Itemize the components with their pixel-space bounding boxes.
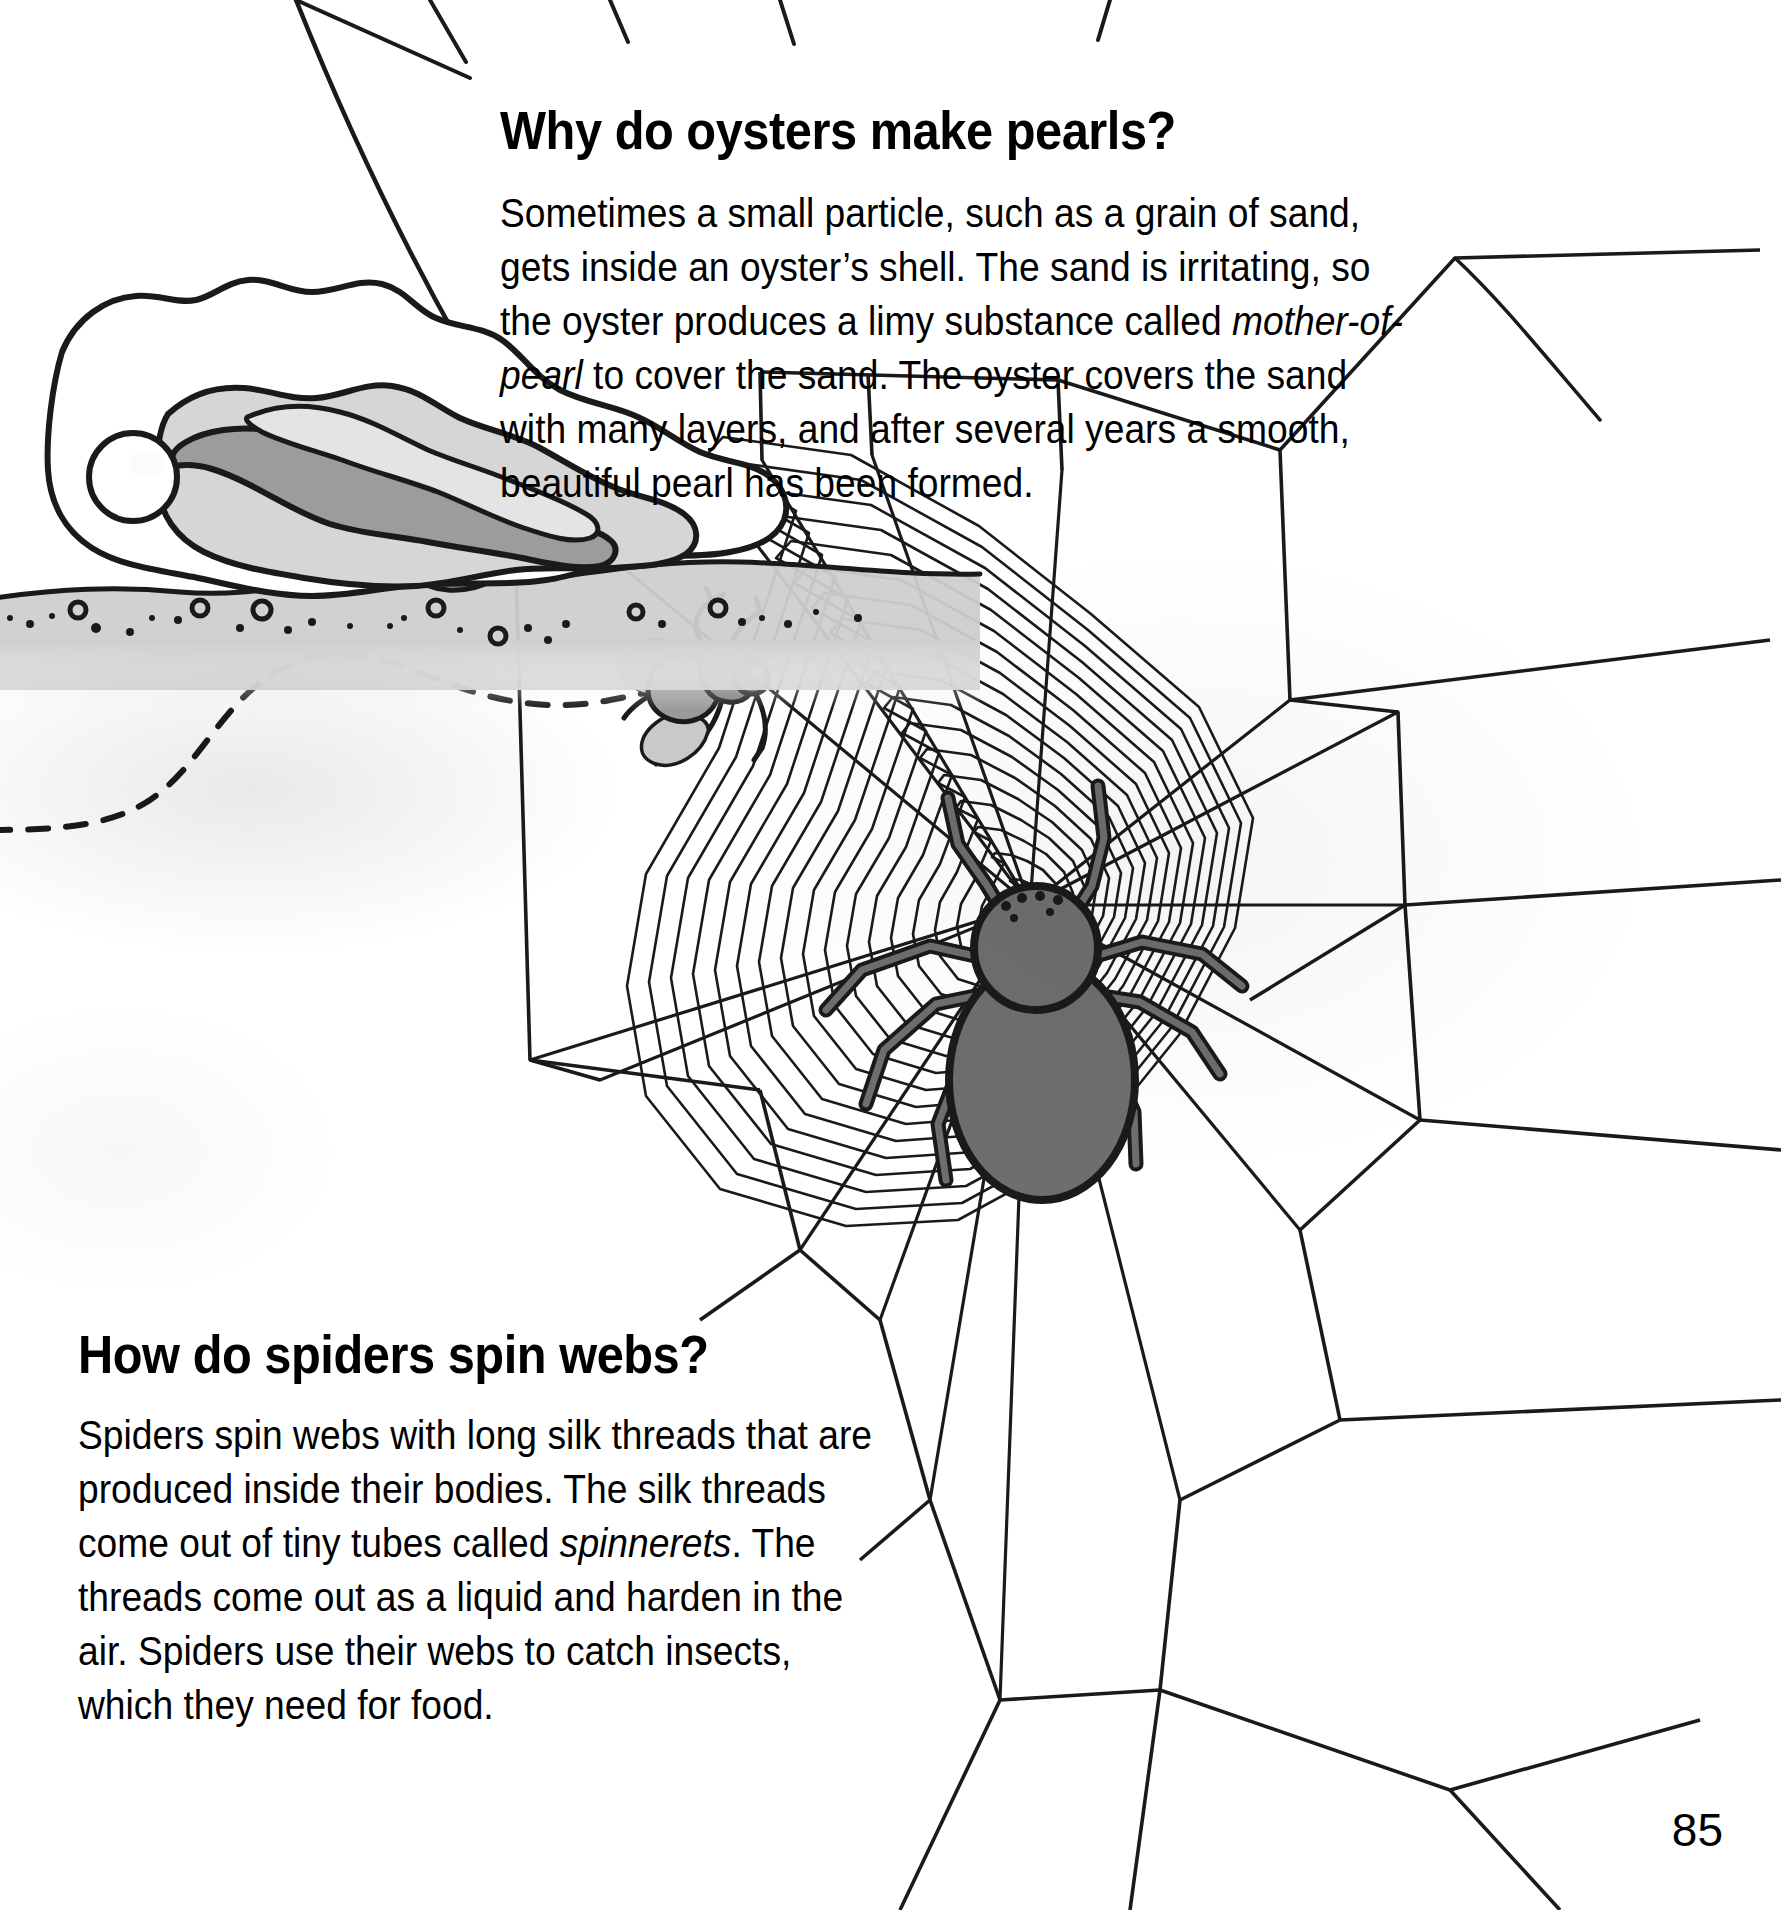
sand-pebbles: [7, 600, 862, 644]
section-heading-oysters: Why do oysters make pearls?: [500, 102, 1176, 160]
spider: [826, 786, 1242, 1200]
emphasised-term: spinnerets: [560, 1521, 732, 1565]
section-body-spiders: Spiders spin webs with long silk threads…: [78, 1408, 878, 1732]
section-heading-spiders: How do spiders spin webs?: [78, 1326, 709, 1384]
pearl: [89, 433, 177, 521]
book-page: Why do oysters make pearls? Sometimes a …: [0, 0, 1781, 1910]
section-body-oysters: Sometimes a small particle, such as a gr…: [500, 186, 1421, 510]
web-spiral-threads: [627, 437, 1253, 1226]
fly-flight-path: [0, 654, 756, 830]
body-text-run: to cover the sand. The oyster covers the…: [500, 353, 1350, 505]
sand-bed: [0, 562, 980, 710]
page-number: 85: [1672, 1805, 1723, 1855]
fly: [620, 588, 769, 765]
